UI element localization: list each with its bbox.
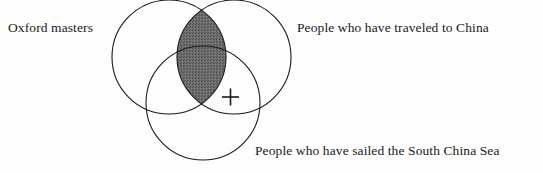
plus-marker	[222, 89, 239, 106]
label-oxford-masters: Oxford masters	[8, 20, 93, 36]
label-sailed-south-china-sea: People who have sailed the South China S…	[255, 143, 500, 159]
venn-diagram-figure: Oxford masters People who have traveled …	[0, 0, 543, 173]
label-traveled-china: People who have traveled to China	[297, 20, 489, 36]
